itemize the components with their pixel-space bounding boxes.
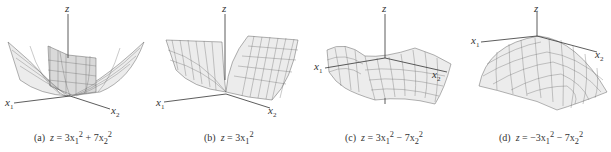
x2-axis-label: x2 <box>432 68 440 83</box>
z-axis-label: z <box>382 2 386 14</box>
caption-b: (b) z = 3x12 <box>204 130 254 146</box>
caption-d: (d) z = −3x12 − 7x22 <box>499 130 583 146</box>
panel-a: z x1 x2 (a) z = 3x12 + 7x22 <box>0 0 152 152</box>
x2-axis-label: x2 <box>268 104 276 119</box>
x1-axis-label: x1 <box>471 34 479 49</box>
caption-c: (c) z = 3x12 − 7x22 <box>345 130 423 146</box>
x1-axis-label: x1 <box>314 60 322 75</box>
dome-surface-plot <box>457 0 611 130</box>
caption-a: (a) z = 3x12 + 7x22 <box>34 130 112 146</box>
x2-axis-label: x2 <box>595 48 603 63</box>
panel-d: z x1 x2 (d) z = −3x12 − 7x22 <box>457 0 611 152</box>
x1-axis-label: x1 <box>156 96 164 111</box>
bowl-surface-plot <box>0 0 152 130</box>
panel-c: z x1 x2 (c) z = 3x12 − 7x22 <box>305 0 457 152</box>
x1-axis-label: x1 <box>5 96 13 111</box>
x2-axis-label: x2 <box>111 104 119 119</box>
trough-surface-plot <box>152 0 304 130</box>
saddle-surface-plot <box>305 0 457 130</box>
z-axis-label: z <box>222 2 226 14</box>
panel-b: z x1 x2 (b) z = 3x12 <box>152 0 304 152</box>
z-axis-label: z <box>534 2 538 14</box>
z-axis-label: z <box>65 2 69 14</box>
